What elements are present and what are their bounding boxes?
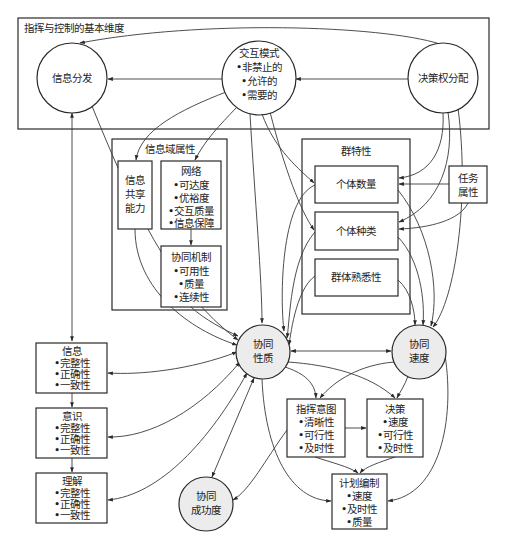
info-sharing-line: 信息 bbox=[125, 174, 145, 186]
node-command-intent: 指挥意图 •清晰性 •可行性 •及时性 bbox=[287, 399, 345, 457]
node-group-familiarity: 群体熟悉性 bbox=[315, 259, 398, 296]
edge-intent-to-planning bbox=[315, 457, 358, 473]
edge-quality-information bbox=[108, 352, 237, 373]
node-info-dissemination: 信息分发 bbox=[37, 43, 107, 113]
node-collab-mechanism: 协同机制 •可用性 •质量 •连续性 bbox=[161, 246, 221, 307]
decision-item: •可行性 bbox=[377, 429, 413, 441]
command-intent-label: 指挥意图 bbox=[296, 403, 336, 415]
c2-dimensions-diagram: 指挥与控制的基本维度 信息域属性 群特性 bbox=[0, 0, 506, 543]
edge-interaction-to-quality bbox=[250, 114, 262, 323]
edge-intent-to-success bbox=[233, 430, 287, 500]
decision-item: •及时性 bbox=[377, 442, 413, 454]
command-intent-item: •及时性 bbox=[298, 442, 334, 454]
collab-mechanism-item: •连续性 bbox=[173, 291, 209, 303]
interaction-mode-item: •允许的 bbox=[241, 75, 277, 87]
node-collab-quality: 协同 性质 bbox=[236, 325, 290, 379]
task-attr-line: 任务 bbox=[458, 172, 479, 184]
node-planning: 计划编制 •速度 •及时性 •质量 bbox=[332, 474, 387, 529]
node-information: 信息 •完整性 •正确性 •一致性 bbox=[36, 343, 107, 393]
awareness-label: 意识 bbox=[62, 410, 82, 422]
node-collab-speed: 协同 速度 bbox=[392, 325, 446, 379]
network-item: •优裕度 bbox=[173, 192, 210, 204]
network-item: •交互质量 bbox=[168, 205, 215, 217]
command-intent-item: •可行性 bbox=[298, 429, 334, 441]
edge-interaction-to-network bbox=[195, 108, 236, 160]
collab-success-line: 协同 bbox=[196, 490, 216, 502]
group-traits-label: 群特性 bbox=[341, 145, 371, 157]
edge-decision-to-planning bbox=[360, 457, 395, 473]
planning-label: 计划编制 bbox=[339, 477, 379, 489]
edge-decision-to-count bbox=[399, 113, 443, 178]
interaction-mode-label: 交互模式 bbox=[239, 47, 280, 59]
information-item: •一致性 bbox=[54, 379, 90, 391]
task-attr-line: 属性 bbox=[458, 186, 478, 198]
edge-variety-to-quality bbox=[287, 232, 315, 338]
edge-mechanism-to-quality bbox=[191, 307, 238, 336]
collab-mechanism-item: •质量 bbox=[178, 278, 205, 290]
planning-item: •质量 bbox=[346, 516, 373, 528]
node-understanding: 理解 •完整性 •正确性 •一致性 bbox=[36, 473, 107, 523]
node-individual-count: 个体数量 bbox=[315, 166, 398, 203]
top-frame-label: 指挥与控制的基本维度 bbox=[24, 22, 125, 34]
collab-speed-line: 协同 bbox=[409, 338, 429, 350]
network-item: •信息保障 bbox=[168, 217, 215, 229]
decision-rights-label: 决策权分配 bbox=[418, 72, 469, 84]
node-decision: 决策 •速度 •可行性 •及时性 bbox=[367, 399, 423, 457]
decision-item: •速度 bbox=[382, 416, 409, 428]
decision-label: 决策 bbox=[385, 403, 406, 415]
edge-count-to-speed bbox=[398, 190, 434, 326]
collab-speed-line: 速度 bbox=[409, 352, 430, 364]
individual-variety-label: 个体种类 bbox=[336, 225, 377, 237]
info-sharing-line: 共享 bbox=[125, 188, 145, 200]
collab-mechanism-label: 协同机制 bbox=[171, 251, 211, 263]
info-domain-label: 信息域属性 bbox=[145, 143, 195, 155]
individual-count-label: 个体数量 bbox=[336, 178, 377, 190]
edge-familiarity-to-speed bbox=[398, 280, 415, 325]
network-item: •可达度 bbox=[173, 179, 210, 191]
edge-speed-to-intent bbox=[320, 362, 394, 398]
node-interaction-mode: 交互模式 •非禁止的 •允许的 •需要的 bbox=[222, 41, 296, 115]
edge-interaction-to-variety bbox=[270, 112, 314, 230]
edge-quality-to-intent bbox=[285, 367, 316, 398]
edge-variety-to-speed bbox=[398, 237, 423, 325]
edge-quality-to-decision bbox=[288, 362, 395, 398]
edge-quality-understanding bbox=[108, 373, 247, 500]
info-dissemination-label: 信息分发 bbox=[52, 72, 93, 84]
edge-quality-success bbox=[212, 378, 254, 477]
command-intent-item: •清晰性 bbox=[298, 416, 334, 428]
node-info-sharing: 信息 共享 能力 bbox=[118, 161, 152, 229]
node-collab-success: 协同 成功度 bbox=[179, 477, 233, 531]
interaction-mode-item: •非禁止的 bbox=[236, 61, 282, 73]
edge-count-to-quality bbox=[282, 185, 315, 331]
group-familiarity-label: 群体熟悉性 bbox=[331, 271, 381, 283]
planning-item: •及时性 bbox=[341, 503, 377, 515]
understanding-label: 理解 bbox=[62, 475, 83, 487]
node-network: 网络 •可达度 •优裕度 •交互质量 •信息保障 bbox=[161, 161, 221, 229]
awareness-item: •一致性 bbox=[54, 444, 90, 456]
collab-quality-line: 协同 bbox=[253, 338, 273, 350]
interaction-mode-item: •需要的 bbox=[241, 89, 277, 101]
node-decision-rights: 决策权分配 bbox=[408, 43, 478, 113]
collab-quality-line: 性质 bbox=[253, 352, 273, 364]
edge-decision-to-speed bbox=[433, 108, 462, 327]
node-task-attributes: 任务 属性 bbox=[449, 166, 487, 203]
planning-item: •速度 bbox=[346, 490, 373, 502]
edge-speed-to-decision bbox=[397, 376, 408, 398]
node-awareness: 意识 •完整性 •正确性 •一致性 bbox=[36, 408, 107, 458]
info-sharing-line: 能力 bbox=[125, 202, 145, 214]
network-label: 网络 bbox=[181, 165, 202, 177]
collab-success-line: 成功度 bbox=[191, 504, 222, 516]
understanding-item: •一致性 bbox=[54, 509, 90, 521]
information-label: 信息 bbox=[62, 345, 82, 357]
node-individual-variety: 个体种类 bbox=[315, 212, 398, 250]
collab-mechanism-item: •可用性 bbox=[173, 265, 209, 277]
